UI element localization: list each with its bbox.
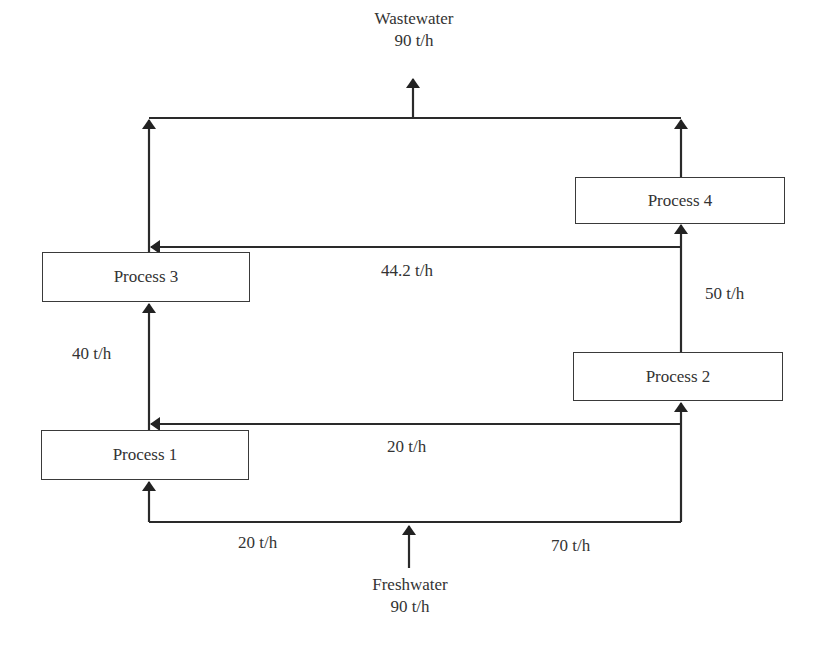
process-4-label: Process 4: [648, 191, 713, 211]
wastewater-label: Wastewater 90 t/h: [375, 8, 454, 52]
flow-label-fresh-to-p2: 70 t/h: [551, 535, 590, 557]
process-2-box: Process 2: [573, 352, 783, 401]
flow-label-p2-to-p4: 50 t/h: [705, 283, 744, 305]
process-3-box: Process 3: [42, 252, 250, 302]
flow-label-fresh-to-p1: 20 t/h: [238, 532, 277, 554]
flow-label-p4-to-p3: 44.2 t/h: [381, 260, 433, 282]
freshwater-label: Freshwater 90 t/h: [372, 574, 448, 618]
flow-lines: [0, 0, 824, 649]
freshwater-flow: 90 t/h: [372, 596, 448, 618]
freshwater-title: Freshwater: [372, 574, 448, 596]
wastewater-title: Wastewater: [375, 8, 454, 30]
process-1-label: Process 1: [113, 445, 178, 465]
process-4-box: Process 4: [575, 177, 785, 224]
process-1-box: Process 1: [41, 430, 249, 480]
flow-label-p1-to-p3: 40 t/h: [72, 343, 111, 365]
process-3-label: Process 3: [114, 267, 179, 287]
process-2-label: Process 2: [646, 367, 711, 387]
flow-label-p2-to-p1: 20 t/h: [387, 436, 426, 458]
wastewater-flow: 90 t/h: [375, 30, 454, 52]
